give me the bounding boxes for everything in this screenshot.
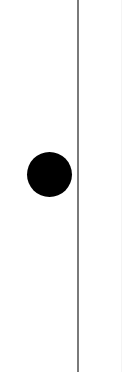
vertical-divider-line xyxy=(77,0,79,372)
black-circle-dot xyxy=(27,152,72,197)
canvas xyxy=(0,0,124,372)
faint-right-edge xyxy=(121,0,122,372)
